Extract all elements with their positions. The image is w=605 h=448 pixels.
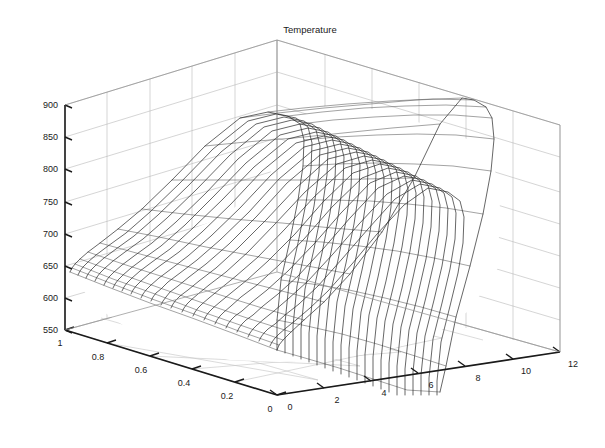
x-tick-label: 1	[57, 338, 62, 348]
y-tick-label: 8	[475, 373, 480, 383]
y-tick-label: 6	[428, 380, 433, 390]
z-tick-label: 600	[43, 293, 58, 303]
y-tick-label: 2	[334, 395, 339, 405]
plot-title: Temperature	[283, 24, 336, 35]
z-tick-labels: 900 850 800 750 700 650 600 550	[43, 100, 58, 335]
z-tick-label: 700	[43, 229, 58, 239]
y-tick-label: 10	[521, 366, 531, 376]
z-axis	[65, 105, 72, 333]
surface-mesh	[70, 98, 500, 395]
z-tick-label: 750	[43, 197, 58, 207]
z-tick-label: 650	[43, 261, 58, 271]
y-tick-label: 4	[381, 388, 386, 398]
z-tick-label: 800	[43, 164, 58, 174]
x-tick-label: 0	[267, 404, 272, 414]
figure-canvas: Temperature 900 850 800 750 700 650 600 …	[0, 0, 605, 448]
x-tick-label: 0.8	[92, 352, 105, 362]
x-tick-label: 0.2	[221, 391, 234, 401]
z-tick-label: 900	[43, 100, 58, 110]
z-tick-label: 550	[43, 325, 58, 335]
y-tick-label: 12	[568, 359, 578, 369]
y-tick-labels: 0 2 4 6 8 10 12	[287, 359, 578, 412]
y-tick-label: 0	[287, 402, 292, 412]
z-tick-label: 850	[43, 132, 58, 142]
x-tick-label: 0.4	[178, 378, 191, 388]
x-tick-label: 0.6	[135, 365, 148, 375]
surface-plot: Temperature 900 850 800 750 700 650 600 …	[0, 0, 605, 448]
